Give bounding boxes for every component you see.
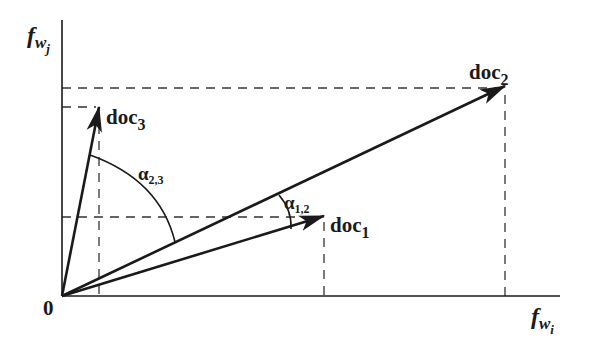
doc3-vector: [62, 107, 99, 296]
labels: fwj fwi 0 doc1 doc2 doc3 α1,2 α2,3: [27, 22, 554, 337]
alpha23-arc: [90, 155, 175, 242]
x-axis-label: fwi: [531, 303, 554, 337]
doc2-label: doc2: [469, 60, 509, 88]
doc1-label: doc1: [330, 213, 370, 241]
y-axis-label: fwj: [27, 22, 50, 56]
alpha12-label: α1,2: [284, 192, 310, 216]
origin-label: 0: [43, 296, 54, 320]
doc1-vector: [62, 216, 324, 296]
angle-arcs: [90, 155, 291, 242]
doc3-label: doc3: [106, 105, 146, 133]
vector-space-diagram: fwj fwi 0 doc1 doc2 doc3 α1,2 α2,3: [0, 0, 590, 347]
alpha23-label: α2,3: [138, 163, 164, 187]
